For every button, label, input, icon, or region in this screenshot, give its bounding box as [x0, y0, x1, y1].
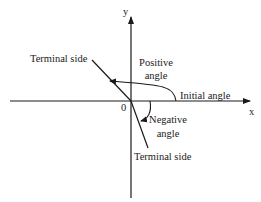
positive-angle-arc — [110, 81, 176, 101]
positive-angle-label-line2: angle — [138, 70, 174, 81]
positive-angle-label-line1: Positive — [136, 57, 176, 68]
terminal-side-upper-ray — [92, 60, 131, 101]
negative-angle-label-line1: Negative — [145, 114, 191, 125]
initial-angle-label: Initial angle — [180, 90, 230, 101]
x-axis-label: x — [249, 106, 254, 117]
negative-angle-label-line2: angle — [150, 128, 186, 139]
terminal-side-upper-label: Terminal side — [30, 53, 87, 64]
origin-label: 0 — [121, 102, 126, 113]
angle-diagram — [0, 0, 261, 202]
y-axis-label: y — [123, 6, 128, 17]
terminal-side-lower-label: Terminal side — [134, 151, 191, 162]
